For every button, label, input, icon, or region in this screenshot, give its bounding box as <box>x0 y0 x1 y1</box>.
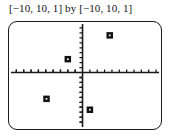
tick-marks-group <box>16 28 156 122</box>
data-point-center-pixel <box>46 98 48 100</box>
graphing-calculator-screenshot: [−10, 10, 1] by [−10, 10, 1] <box>0 0 170 136</box>
scatter-plot <box>9 22 161 129</box>
window-settings-label: [−10, 10, 1] by [−10, 10, 1] <box>9 1 132 15</box>
data-point-marker <box>106 32 113 38</box>
axes-group <box>11 24 159 127</box>
calculator-screen <box>8 21 162 130</box>
data-point-center-pixel <box>67 58 69 60</box>
data-point-center-pixel <box>89 109 91 111</box>
data-point-marker <box>87 107 94 113</box>
data-point-marker <box>43 96 50 102</box>
data-point-marker <box>65 56 72 62</box>
data-point-center-pixel <box>109 35 111 37</box>
